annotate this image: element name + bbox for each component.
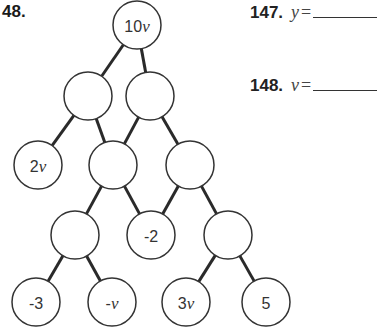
pyramid-node-blank[interactable] — [204, 211, 252, 259]
pyramid-edge — [163, 186, 179, 214]
node-label: 3v — [178, 294, 195, 313]
node-label: -v — [106, 294, 119, 313]
node-label: 2v — [30, 157, 47, 176]
pyramid-edge — [48, 256, 63, 282]
pyramid-node: 3v — [162, 278, 210, 326]
pyramid-edge — [201, 186, 216, 214]
node-label: 10v — [124, 17, 150, 36]
pyramid-node-blank[interactable] — [51, 211, 99, 259]
pyramid-edge — [96, 119, 105, 143]
pyramid-edge — [86, 186, 101, 214]
pyramid-edge — [87, 256, 101, 281]
pyramid-node: 10v — [113, 1, 161, 49]
pyramid-node: -v — [88, 278, 136, 326]
pyramid-node: 5 — [242, 278, 290, 326]
node-label: -3 — [29, 295, 43, 312]
pyramid-edge — [199, 255, 216, 281]
pyramid-node: -2 — [127, 211, 175, 259]
pyramid-edge — [141, 49, 145, 73]
pyramid-node-blank[interactable] — [64, 72, 112, 120]
pyramid-node: -3 — [12, 278, 60, 326]
node-label: 5 — [262, 295, 271, 312]
pyramid-edge — [124, 186, 139, 214]
pyramid-edge — [162, 117, 178, 144]
pyramid-node-blank[interactable] — [89, 141, 137, 189]
pyramid-node: 2v — [14, 141, 62, 189]
node-label: -2 — [144, 228, 158, 245]
pyramid-edge — [52, 115, 74, 145]
pyramid-edge — [124, 117, 138, 144]
pyramid-edge — [102, 45, 124, 76]
pyramid-node-blank[interactable] — [166, 141, 214, 189]
pyramid-node-blank[interactable] — [126, 72, 174, 120]
pyramid-edge — [240, 256, 254, 281]
